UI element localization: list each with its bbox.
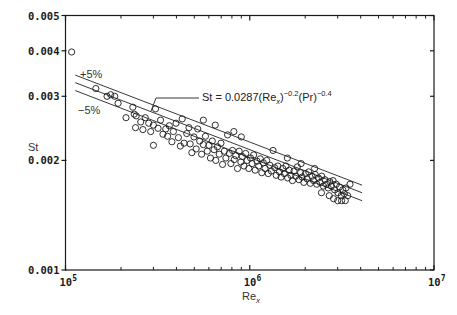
upper-band-label: +5% (80, 68, 103, 80)
data-point (259, 170, 265, 176)
y-axis-title: St (28, 141, 38, 153)
data-point (347, 181, 353, 187)
data-point (186, 125, 192, 131)
data-point (148, 128, 154, 134)
data-point (112, 93, 118, 99)
equation-annotation: St = 0.0287(Rex)−0.2(Pr)−0.4 (151, 89, 332, 111)
equation-prefix: St = 0.0287(Re (202, 91, 276, 103)
data-point (199, 151, 205, 157)
equation-label: St = 0.0287(Rex)−0.2(Pr)−0.4 (202, 89, 332, 106)
x-tick-label: 107 (428, 274, 446, 288)
data-point (132, 125, 138, 131)
data-point (69, 49, 75, 55)
data-point (152, 106, 158, 112)
plot-frame (66, 16, 435, 271)
data-point (157, 117, 163, 123)
data-point (228, 160, 234, 166)
x-tick-label: 105 (60, 274, 78, 288)
plot-border (66, 16, 435, 271)
y-tick-label: 0.002 (28, 154, 60, 166)
data-point (224, 132, 230, 138)
data-point (301, 179, 307, 185)
data-point (284, 155, 290, 161)
data-point (252, 167, 258, 173)
data-point (179, 116, 185, 122)
data-point (169, 139, 175, 145)
data-point (213, 157, 219, 163)
data-point (150, 142, 156, 148)
y-tick-label: 0.001 (28, 264, 60, 276)
x-axis-title: Rex (242, 290, 261, 305)
data-point (123, 115, 129, 121)
data-point (104, 93, 110, 99)
data-point (193, 146, 199, 152)
data-point (197, 138, 203, 144)
data-point (218, 140, 224, 146)
lower-band-label: −5% (78, 104, 101, 116)
data-point (155, 125, 161, 131)
x-axis-title-sub: x (255, 296, 261, 305)
data-point (187, 141, 193, 147)
scatter-chart: 0.0010.0020.0030.0040.005 105106107 +5% … (0, 0, 457, 315)
data-point (219, 161, 225, 167)
data-points (69, 49, 354, 204)
data-point (140, 126, 146, 132)
data-point (108, 92, 114, 98)
data-point (170, 128, 176, 134)
data-point (318, 190, 324, 196)
data-point (312, 165, 318, 171)
data-point (202, 133, 208, 139)
y-tick-label: 0.003 (28, 90, 60, 102)
data-point (231, 128, 237, 134)
y-tick-label: 0.004 (28, 45, 60, 57)
equation-exp1: −0.2 (284, 89, 299, 98)
data-point (200, 117, 206, 123)
equation-exp2: −0.4 (317, 89, 332, 98)
data-point (212, 122, 218, 128)
data-point (204, 148, 210, 154)
equation-mid: (Pr) (299, 91, 317, 103)
data-point (175, 135, 181, 141)
data-point (115, 100, 121, 106)
data-point (234, 165, 240, 171)
data-point (231, 157, 237, 163)
data-point (326, 193, 332, 199)
x-tick-label: 106 (244, 274, 262, 288)
data-point (342, 198, 348, 204)
x-axis-title-base: Re (242, 290, 256, 302)
minor-ticks (121, 16, 426, 271)
y-tick-label: 0.005 (28, 10, 60, 22)
